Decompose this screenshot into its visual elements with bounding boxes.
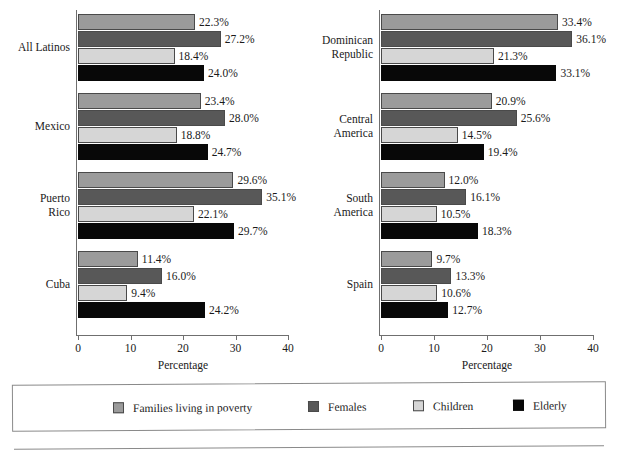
category-axis-right xyxy=(379,10,380,335)
bar-families-living-in-poverty xyxy=(381,14,558,30)
bar-value-label: 33.1% xyxy=(560,67,590,80)
axis-tick xyxy=(434,335,435,340)
axis-tick xyxy=(183,335,184,340)
bar-females xyxy=(381,189,466,205)
bar-children xyxy=(381,48,494,64)
bar-value-label: 22.1% xyxy=(198,208,228,221)
bar-children xyxy=(78,48,175,64)
axis-tick-label: 0 xyxy=(378,342,384,354)
bar-elderly xyxy=(78,302,205,318)
bar-children xyxy=(381,127,458,143)
value-axis-left xyxy=(76,335,288,336)
bar-elderly xyxy=(381,65,556,81)
chart-panel-right: 010203040 Dominican Republic33.4%36.1%21… xyxy=(305,0,620,372)
bar-elderly xyxy=(381,223,478,239)
axis-title-right: Percentage xyxy=(381,359,593,371)
bar-children xyxy=(381,206,437,222)
bar-elderly xyxy=(78,223,234,239)
bar-elderly xyxy=(381,302,448,318)
axis-tick-label: 40 xyxy=(282,342,294,354)
axis-tick-label: 30 xyxy=(230,342,242,354)
bar-value-label: 24.7% xyxy=(212,146,242,159)
axis-tick-label: 20 xyxy=(177,342,189,354)
legend-swatch-icon xyxy=(513,400,524,411)
bar-value-label: 20.9% xyxy=(496,95,526,108)
legend-swatch-icon xyxy=(113,402,124,413)
legend-item-elderly[interactable]: Elderly xyxy=(513,399,567,411)
bar-families-living-in-poverty xyxy=(78,93,201,109)
bar-value-label: 18.3% xyxy=(482,225,512,238)
legend-item-families-living-in-poverty[interactable]: Families living in poverty xyxy=(113,401,252,414)
legend-item-females[interactable]: Females xyxy=(308,400,366,412)
bar-value-label: 18.8% xyxy=(181,129,211,142)
axis-title-left: Percentage xyxy=(78,359,288,371)
bar-group: Spain9.7%13.3%10.6%12.7% xyxy=(381,251,593,319)
bar-families-living-in-poverty xyxy=(381,172,445,188)
bar-value-label: 36.1% xyxy=(576,33,606,46)
bar-children xyxy=(381,285,437,301)
category-label: Puerto Rico xyxy=(0,192,70,219)
legend-items: Families living in povertyFemalesChildre… xyxy=(13,382,605,431)
bar-females xyxy=(381,268,451,284)
bar-value-label: 18.4% xyxy=(179,50,209,63)
plot-area-right: 010203040 Dominican Republic33.4%36.1%21… xyxy=(381,10,593,335)
legend-label: Families living in poverty xyxy=(133,401,252,414)
bar-value-label: 24.2% xyxy=(209,304,239,317)
bar-children xyxy=(78,127,177,143)
bar-value-label: 13.3% xyxy=(455,270,485,283)
category-label: All Latinos xyxy=(0,41,70,55)
bar-families-living-in-poverty xyxy=(381,93,492,109)
bar-value-label: 19.4% xyxy=(488,146,518,159)
axis-tick xyxy=(381,335,382,340)
bar-value-label: 12.7% xyxy=(452,304,482,317)
axis-tick xyxy=(593,335,594,340)
bar-value-label: 16.0% xyxy=(166,270,196,283)
category-label: Central America xyxy=(253,113,373,140)
bar-children xyxy=(78,285,127,301)
bar-value-label: 24.0% xyxy=(208,67,238,80)
bar-elderly xyxy=(78,144,208,160)
bar-females xyxy=(78,110,225,126)
axis-tick-label: 10 xyxy=(428,342,440,354)
category-label: Cuba xyxy=(0,278,70,292)
bar-females xyxy=(381,31,572,47)
legend-label: Females xyxy=(328,400,366,412)
legend-label: Children xyxy=(433,399,473,411)
bar-value-label: 9.4% xyxy=(131,287,155,300)
axis-tick xyxy=(131,335,132,340)
bar-value-label: 25.6% xyxy=(521,112,551,125)
bar-group: South America12.0%16.1%10.5%18.3% xyxy=(381,172,593,240)
legend-swatch-icon xyxy=(413,400,424,411)
axis-tick-label: 0 xyxy=(75,342,81,354)
legend-box: Families living in povertyFemalesChildre… xyxy=(12,381,606,432)
bar-females xyxy=(78,31,221,47)
bar-value-label: 29.7% xyxy=(238,225,268,238)
legend-swatch-icon xyxy=(308,401,319,412)
value-axis-right xyxy=(379,335,593,336)
bar-value-label: 10.5% xyxy=(441,208,471,221)
axis-tick xyxy=(487,335,488,340)
axis-tick-label: 40 xyxy=(587,342,599,354)
category-label: Dominican Republic xyxy=(253,34,373,61)
axis-tick-label: 20 xyxy=(481,342,493,354)
bottom-rule xyxy=(14,445,604,450)
category-label: Spain xyxy=(253,278,373,292)
bar-value-label: 11.4% xyxy=(142,253,171,266)
bar-value-label: 10.6% xyxy=(441,287,471,300)
bar-value-label: 23.4% xyxy=(205,95,235,108)
bar-value-label: 29.6% xyxy=(237,174,267,187)
bar-value-label: 21.3% xyxy=(498,50,528,63)
bar-families-living-in-poverty xyxy=(78,251,138,267)
legend-item-children[interactable]: Children xyxy=(413,399,473,411)
category-label: South America xyxy=(253,192,373,219)
category-label: Mexico xyxy=(0,120,70,134)
figure-canvas: 010203040 All Latinos22.3%27.2%18.4%24.0… xyxy=(0,0,620,459)
axis-tick xyxy=(540,335,541,340)
bar-value-label: 12.0% xyxy=(449,174,479,187)
bar-value-label: 16.1% xyxy=(470,191,500,204)
bar-value-label: 9.7% xyxy=(436,253,460,266)
bar-females xyxy=(78,268,162,284)
bar-value-label: 14.5% xyxy=(462,129,492,142)
axis-tick-label: 10 xyxy=(125,342,137,354)
bar-females xyxy=(78,189,262,205)
